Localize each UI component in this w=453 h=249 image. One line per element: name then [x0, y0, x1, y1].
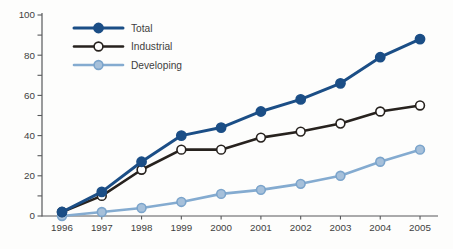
- data-point-total: [217, 123, 226, 132]
- x-axis-tick-label: 1998: [131, 222, 153, 233]
- x-axis-tick-label: 2004: [369, 222, 391, 233]
- data-point-total: [57, 207, 66, 216]
- series-line-industrial: [62, 105, 420, 212]
- data-point-total: [97, 187, 106, 196]
- data-point-total: [137, 157, 146, 166]
- line-chart-figure: 0204060801001996199719981999200020012002…: [0, 0, 453, 249]
- data-point-total: [415, 35, 424, 44]
- data-point-total: [177, 131, 186, 140]
- y-axis-tick-label: 0: [30, 210, 36, 221]
- x-axis-tick-label: 2002: [290, 222, 312, 233]
- legend-swatch-marker-developing: [94, 61, 103, 70]
- y-axis-tick-label: 100: [19, 9, 36, 20]
- data-point-developing: [336, 171, 345, 180]
- x-axis-tick-label: 2000: [210, 222, 232, 233]
- data-point-total: [376, 53, 385, 62]
- x-axis-tick-label: 2001: [250, 222, 272, 233]
- x-axis-tick-label: 1997: [91, 222, 113, 233]
- y-axis-tick-label: 60: [24, 90, 35, 101]
- data-point-total: [256, 107, 265, 116]
- data-point-developing: [97, 208, 106, 217]
- legend-label-total: Total: [131, 23, 153, 34]
- data-point-total: [336, 79, 345, 88]
- data-point-industrial: [416, 101, 425, 110]
- data-point-developing: [296, 179, 305, 188]
- data-point-industrial: [376, 107, 385, 116]
- y-axis-tick-label: 20: [24, 170, 35, 181]
- line-chart: 0204060801001996199719981999200020012002…: [0, 0, 453, 249]
- legend-label-industrial: Industrial: [131, 41, 172, 52]
- data-point-developing: [217, 189, 226, 198]
- data-point-industrial: [257, 133, 266, 142]
- data-point-developing: [137, 204, 146, 213]
- y-axis-tick-label: 40: [24, 130, 35, 141]
- data-point-industrial: [336, 119, 345, 128]
- y-axis-tick-label: 80: [24, 50, 35, 61]
- data-point-developing: [177, 198, 186, 207]
- legend-swatch-marker-total: [94, 23, 103, 32]
- data-point-developing: [376, 157, 385, 166]
- data-point-total: [296, 95, 305, 104]
- data-point-industrial: [177, 145, 186, 154]
- data-point-industrial: [296, 127, 305, 136]
- data-point-industrial: [217, 145, 226, 154]
- x-axis-tick-label: 2003: [330, 222, 352, 233]
- x-axis-tick-label: 2005: [409, 222, 431, 233]
- data-point-developing: [416, 145, 425, 154]
- legend-label-developing: Developing: [131, 60, 182, 71]
- data-point-developing: [257, 185, 266, 194]
- legend-swatch-marker-industrial: [94, 42, 103, 51]
- x-axis-tick-label: 1996: [51, 222, 73, 233]
- x-axis-tick-label: 1999: [170, 222, 192, 233]
